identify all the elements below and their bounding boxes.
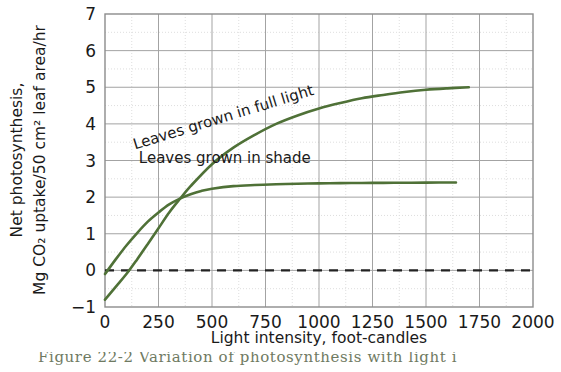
- figure-caption-strip: Figure 22-2 Variation of photosynthesis …: [0, 352, 561, 372]
- y-tick-label: 3: [85, 151, 96, 171]
- y-tick-label: 7: [85, 4, 96, 24]
- x-tick-label: 2000: [511, 312, 554, 332]
- y-tick-label: 5: [85, 77, 96, 97]
- x-tick-label: 0: [100, 312, 111, 332]
- figure-container: 025050075010001250150017502000 −10123456…: [0, 0, 561, 372]
- x-tick-label: 1750: [458, 312, 501, 332]
- x-tick-label: 250: [142, 312, 174, 332]
- y-tick-label: 0: [85, 260, 96, 280]
- figure-caption: Figure 22-2 Variation of photosynthesis …: [38, 352, 457, 366]
- y-axis-title-line1: Net photosynthesis,: [8, 83, 26, 238]
- y-tick-label: −1: [71, 297, 96, 317]
- y-tick-label: 2: [85, 187, 96, 207]
- y-tick-label: 1: [85, 224, 96, 244]
- x-axis-title: Light intensity, foot-candles: [211, 329, 427, 347]
- y-tick-label: 6: [85, 41, 96, 61]
- series-label-shade: Leaves grown in shade: [139, 149, 311, 167]
- y-tick-label: 4: [85, 114, 96, 134]
- y-axis-title-line2: Mg CO₂ uptake/50 cm² leaf area/hr: [31, 24, 49, 294]
- y-axis-tick-labels: −101234567: [71, 4, 96, 317]
- photosynthesis-light-response-chart: 025050075010001250150017502000 −10123456…: [0, 0, 561, 352]
